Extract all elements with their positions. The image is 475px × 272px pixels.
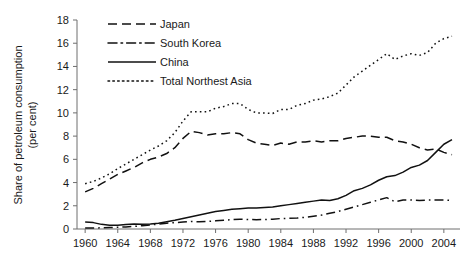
x-tick-label-1964: 1964 [106,237,130,249]
y-tick-label-14: 14 [57,60,69,72]
series-line-south-korea [85,198,452,228]
legend-label-japan: Japan [160,18,190,30]
legend-label-china: China [160,56,190,68]
x-tick-label-1984: 1984 [269,237,293,249]
x-tick-label-1992: 1992 [334,237,358,249]
series-line-japan [85,131,452,191]
legend-label-total-northest-asia: Total Northest Asia [160,75,253,87]
series-line-china [85,140,452,226]
y-tick-label-6: 6 [63,153,69,165]
legend-label-south-korea: South Korea [160,37,222,49]
y-tick-label-16: 16 [57,37,69,49]
x-tick-label-1976: 1976 [203,237,227,249]
x-tick-label-1968: 1968 [138,237,162,249]
y-tick-label-2: 2 [63,200,69,212]
x-tick-label-1972: 1972 [171,237,195,249]
line-chart: Share of petroleum consumption(per cent)… [0,0,475,272]
y-axis-title-line-2: (per cent) [26,101,38,148]
series-lines [85,36,452,228]
x-tick-label-2004: 2004 [432,237,456,249]
x-tick-label-2000: 2000 [399,237,423,249]
chart-legend: JapanSouth KoreaChinaTotal Northest Asia [108,18,253,87]
y-tick-label-4: 4 [63,177,69,189]
y-axis-title-line-1: Share of petroleum consumption [12,46,24,205]
x-tick-label-1988: 1988 [301,237,325,249]
x-tick-label-1996: 1996 [366,237,390,249]
y-tick-label-0: 0 [63,223,69,235]
y-tick-label-18: 18 [57,14,69,26]
y-tick-label-12: 12 [57,84,69,96]
y-axis-title: Share of petroleum consumption(per cent) [12,46,38,205]
y-tick-label-8: 8 [63,130,69,142]
y-tick-label-10: 10 [57,107,69,119]
x-tick-label-1980: 1980 [236,237,260,249]
series-line-total-northest-asia [85,36,452,183]
x-tick-label-1960: 1960 [73,237,97,249]
axis-lines [77,20,460,229]
y-axis-ticks: 024681012141618 [57,14,77,235]
chart-container: Share of petroleum consumption(per cent)… [0,0,475,272]
x-axis-ticks: 1960196419681972197619801984198819921996… [73,229,456,249]
